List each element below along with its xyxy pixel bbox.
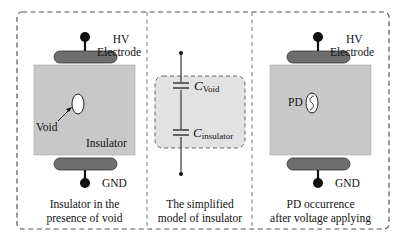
right-electrode-label: Electrode bbox=[330, 46, 374, 59]
gnd-electrode-bar-right bbox=[287, 158, 350, 170]
void-label: Void bbox=[36, 121, 58, 134]
gnd-terminal bbox=[80, 178, 90, 188]
middle-panel-graphics bbox=[155, 51, 245, 176]
c-void-subscript: Void bbox=[203, 84, 220, 94]
right-gnd-label: GND bbox=[335, 177, 360, 190]
gnd-electrode-bar bbox=[54, 158, 117, 170]
hv-terminal-right bbox=[313, 32, 323, 42]
pd-label: PD bbox=[288, 96, 303, 109]
left-caption-line2: presence of void bbox=[34, 212, 135, 226]
middle-caption-line2: model of insulator bbox=[148, 212, 252, 226]
insulator-label: Insulator bbox=[86, 137, 127, 150]
right-caption: PD occurrence after voltage applying bbox=[254, 198, 387, 225]
right-hv-label: HV bbox=[346, 33, 363, 46]
middle-caption-line1: The simplified bbox=[148, 198, 252, 212]
left-hv-line1: HV bbox=[97, 33, 145, 46]
c-insulator-label: Cinsulator bbox=[193, 126, 233, 143]
gnd-terminal-right bbox=[313, 178, 323, 188]
void-ellipse bbox=[72, 94, 84, 114]
right-caption-line2: after voltage applying bbox=[254, 212, 387, 226]
insulator-block-right bbox=[270, 65, 371, 155]
c-void-symbol: C bbox=[194, 78, 203, 93]
left-caption-line1: Insulator in the bbox=[34, 198, 135, 212]
c-insulator-subscript: insulator bbox=[202, 131, 234, 141]
right-caption-line1: PD occurrence bbox=[254, 198, 387, 212]
middle-caption: The simplified model of insulator bbox=[148, 198, 252, 225]
c-insulator-symbol: C bbox=[193, 125, 202, 140]
left-caption: Insulator in the presence of void bbox=[34, 198, 135, 225]
c-void-label: CVoid bbox=[194, 79, 220, 96]
left-electrode-label: Electrode bbox=[97, 46, 141, 59]
left-hv-label: HV bbox=[97, 33, 145, 46]
hv-terminal bbox=[80, 32, 90, 42]
left-gnd-label: GND bbox=[102, 177, 127, 190]
